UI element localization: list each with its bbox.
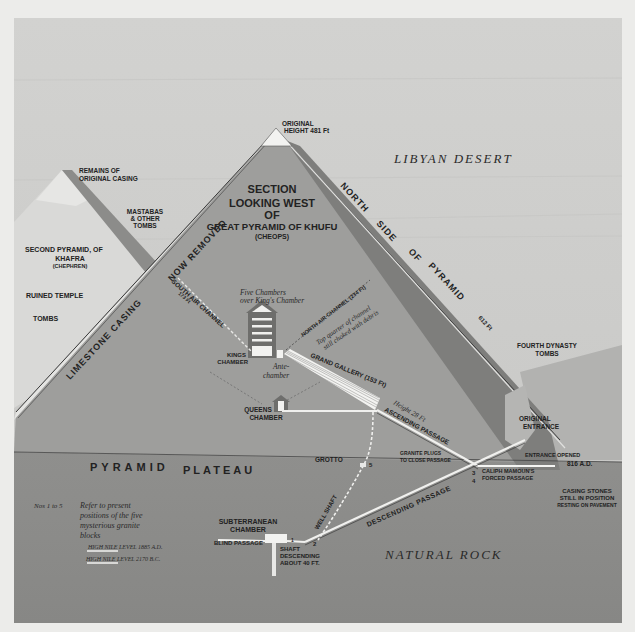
queens-chamber-1: QUEENS	[244, 406, 272, 414]
grotto-label: GROTTO	[315, 456, 343, 463]
shaft-2: DESCENDING	[280, 553, 320, 559]
grotto-marker	[360, 463, 366, 467]
legend-desc-2: positions of the five	[79, 511, 143, 520]
shaft-3: ABOUT 40 FT.	[280, 560, 320, 566]
apex-label-2: HEIGHT 481 Ft	[284, 127, 330, 134]
apex-label-1: ORIGINAL	[282, 120, 314, 127]
remains-casing-2: ORIGINAL CASING	[79, 175, 138, 182]
antechamber-2: chamber	[263, 371, 289, 380]
second-pyramid-2: KHAFRA	[55, 255, 85, 262]
legend-desc-1: Refer to present	[79, 501, 132, 510]
granite-plugs-2: TO CLOSE PASSAGE	[400, 457, 452, 463]
queens-chamber-2: CHAMBER	[249, 414, 283, 421]
second-pyramid-1: SECOND PYRAMID, OF	[25, 246, 104, 254]
five-chambers-2: over King's Chamber	[240, 296, 304, 305]
kings-chamber-2: CHAMBER	[217, 359, 248, 365]
legend-desc-3: mysterious granite	[80, 521, 140, 530]
fourth-dynasty-1: FOURTH DYNASTY	[517, 342, 578, 349]
casing-stones-1: CASING STONES	[562, 488, 612, 494]
tombs-label: TOMBS	[33, 315, 58, 322]
mamoun-1: CALIPH MAMOUN'S	[482, 468, 535, 474]
antechamber-1: Ante-	[272, 362, 290, 371]
nile-level-1885-label: HIGH NILE LEVEL 1885 A.D.	[87, 544, 162, 550]
pyramid-section-illustration: ORIGINAL HEIGHT 481 Ft SECTION LOOKING W…	[0, 0, 635, 632]
nile-level-2170-label: HIGH NILE LEVEL 2170 B.C.	[85, 556, 160, 562]
casing-stones-3: RESTING ON PAVEMENT	[557, 502, 617, 508]
plateau-word-label: PLATEAU	[183, 464, 255, 476]
original-entrance-2: ENTRANCE	[523, 423, 560, 430]
libyan-desert-label: LIBYAN DESERT	[393, 151, 513, 166]
mastabas-2: & OTHER	[130, 215, 160, 222]
title-of: OF	[264, 209, 280, 221]
descending-shaft	[272, 543, 276, 576]
entrance-opened-1: ENTRANCE OPENED	[525, 452, 580, 458]
kings-chamber	[252, 346, 272, 356]
casing-stones-2: STILL IN POSITION	[560, 495, 615, 501]
mastabas-1: MASTABAS	[127, 208, 164, 215]
block-1: 1	[291, 537, 294, 543]
mamoun-2: FORCED PASSAGE	[482, 475, 534, 481]
second-pyramid-3: (CHEPHREN)	[53, 263, 88, 269]
fourth-dynasty-2: TOMBS	[535, 350, 559, 357]
original-entrance-1: ORIGINAL	[519, 415, 551, 422]
blind-passage-label: BLIND PASSAGE	[214, 540, 263, 546]
entrance-opened-2: 816 A.D.	[567, 460, 593, 467]
natural-rock-label: NATURAL ROCK	[384, 547, 503, 562]
mastabas-3: TOMBS	[133, 222, 157, 229]
ruined-temple-label: RUINED TEMPLE	[26, 292, 84, 299]
pyramid-word-label: PYRAMID	[90, 461, 169, 473]
legend-desc-4: blocks	[80, 531, 100, 540]
granite-plugs-1: GRANITE PLUGS	[400, 450, 442, 456]
title-section: SECTION	[248, 183, 297, 195]
remains-casing-1: REMAINS OF	[79, 167, 120, 174]
legend-nos: Nos 1 to 5	[33, 502, 63, 510]
kings-chamber-1: KINGS	[227, 352, 246, 358]
title-cheops: (CHEOPS)	[255, 233, 289, 241]
subterranean-1: SUBTERRANEAN	[219, 518, 278, 525]
antechamber	[277, 350, 283, 358]
subterranean-2: CHAMBER	[230, 526, 266, 533]
shaft-1: SHAFT	[280, 546, 300, 552]
title-looking-west: LOOKING WEST	[229, 197, 315, 209]
